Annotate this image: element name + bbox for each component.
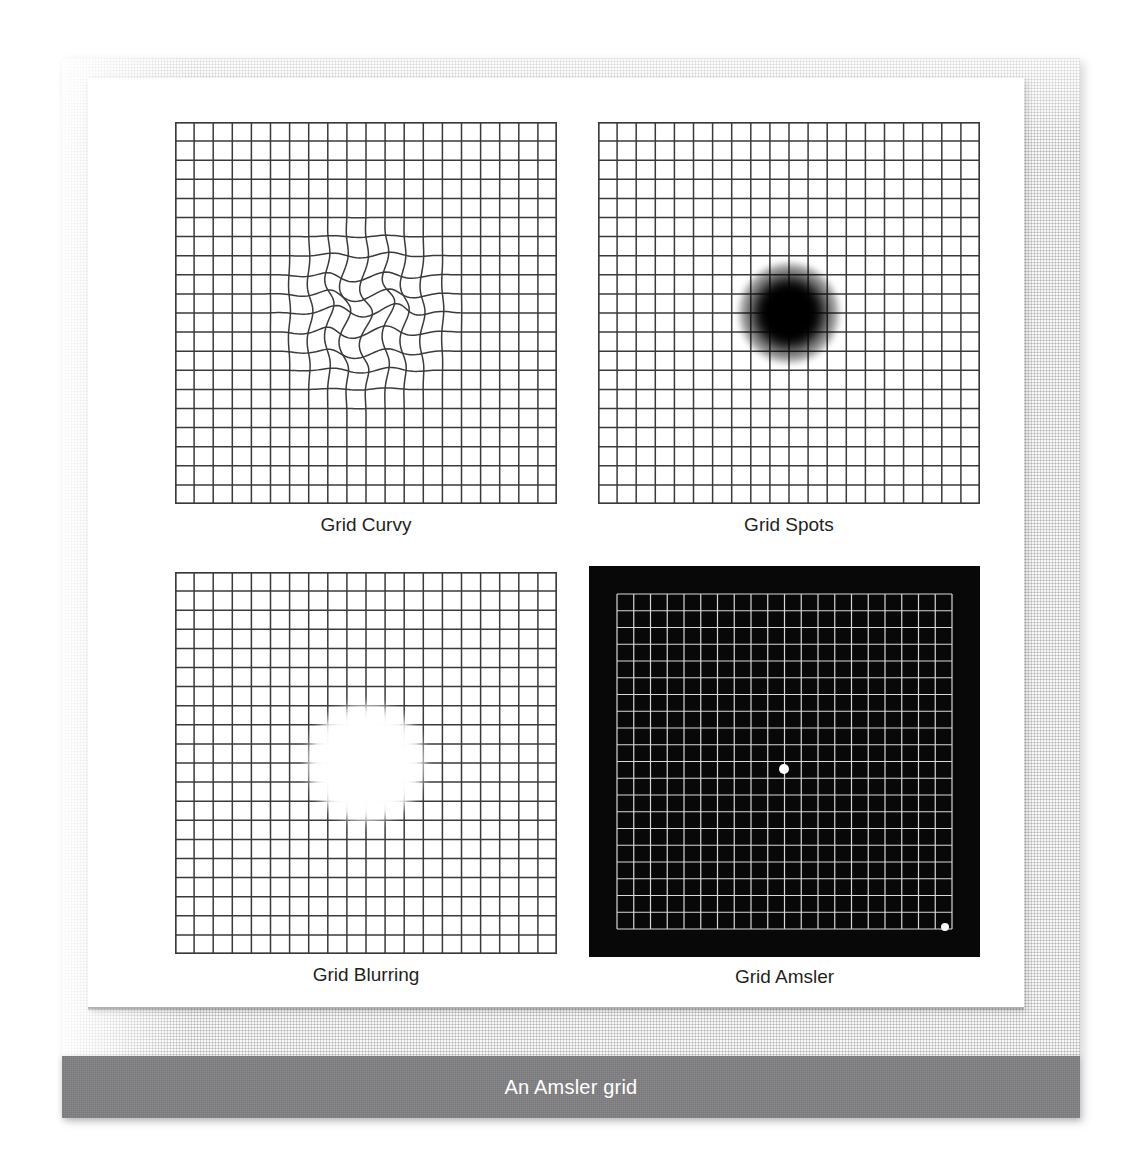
grid-spots-figure [598,122,980,504]
panel-grid-amsler[interactable]: Grid Amsler [589,566,980,1012]
central-fixation-dot [779,764,789,774]
figure-caption-text: An Amsler grid [505,1076,638,1099]
grid-blurring-figure [175,572,557,954]
panel-label-grid-curvy: Grid Curvy [175,514,557,536]
figure-caption-bar: An Amsler grid [62,1056,1080,1118]
grid-amsler-figure [589,566,980,957]
panel-grid-spots[interactable]: Grid Spots [598,122,980,562]
panel-label-grid-spots: Grid Spots [598,514,980,536]
secondary-dot [941,923,949,931]
amsler-grid-figure: Grid Curvy Grid Spots [0,0,1142,1159]
panel-grid-blurring[interactable]: Grid Blurring [175,572,557,1012]
panel-label-grid-blurring: Grid Blurring [175,964,557,986]
grid-curvy-figure [175,122,557,504]
amsler-black-card [589,566,980,957]
panel-label-grid-amsler: Grid Amsler [589,966,980,988]
panel-grid-curvy[interactable]: Grid Curvy [175,122,557,562]
